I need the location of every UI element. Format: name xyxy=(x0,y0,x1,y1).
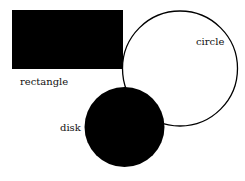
disk-shape xyxy=(85,87,165,167)
circle-label: circle xyxy=(196,36,224,47)
rectangle-label: rectangle xyxy=(20,76,68,87)
rectangle-shape xyxy=(12,10,123,69)
shapes-diagram: circle rectangle disk xyxy=(0,0,245,181)
disk-label: disk xyxy=(60,122,82,133)
